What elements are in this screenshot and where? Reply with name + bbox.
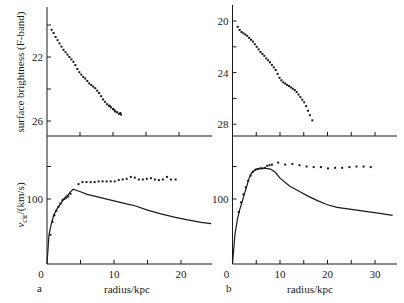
data-point (175, 179, 177, 181)
data-point (119, 112, 121, 114)
data-point (348, 166, 350, 168)
data-point (142, 179, 144, 181)
data-point (265, 57, 267, 59)
figure: 2226202428100010201000102030 surface bri… (0, 0, 404, 303)
data-point (82, 76, 84, 78)
data-point (146, 178, 148, 180)
data-point (68, 56, 70, 58)
data-point (100, 95, 102, 97)
y-tick-label: 100 (212, 193, 229, 205)
data-point (269, 164, 271, 166)
data-point (116, 111, 118, 113)
data-point (126, 178, 128, 180)
data-point (271, 64, 273, 66)
x-tick-label: 30 (370, 268, 382, 280)
data-point (104, 101, 106, 103)
data-point (290, 86, 292, 88)
data-point (57, 39, 59, 41)
data-point (96, 90, 98, 92)
data-point (158, 179, 160, 181)
y-axis-title-top: surface brightness (F-band) (14, 11, 27, 132)
data-point (320, 166, 322, 168)
tick-marks (47, 21, 375, 264)
data-point (102, 98, 104, 100)
data-point (306, 166, 308, 168)
data-point (130, 176, 132, 178)
data-point (53, 32, 55, 34)
data-point (86, 181, 88, 183)
data-point (363, 166, 365, 168)
data-point (277, 162, 279, 164)
data-point (78, 183, 80, 185)
data-point (88, 82, 90, 84)
data-point (51, 29, 53, 31)
data-point (118, 179, 120, 181)
y-tick-label: 100 (27, 193, 44, 205)
data-point (252, 41, 254, 43)
data-point (84, 78, 86, 80)
data-point (134, 177, 136, 179)
data-point (138, 179, 140, 181)
data-point (106, 103, 108, 105)
data-point (341, 167, 343, 169)
data-point (280, 79, 282, 81)
data-point (92, 86, 94, 88)
data-point (299, 96, 301, 98)
data-point (294, 89, 296, 91)
data-point (114, 180, 116, 182)
data-point (248, 37, 250, 39)
data-point (298, 94, 300, 96)
panel-b-label: b (226, 282, 232, 294)
plot-data (47, 26, 393, 264)
data-point (90, 84, 92, 86)
data-point (94, 181, 96, 183)
data-point (258, 48, 260, 50)
data-point (241, 31, 243, 33)
data-point (305, 105, 307, 107)
data-point (370, 166, 372, 168)
x-axis-title-a: radius/kpc (104, 283, 150, 295)
data-point (110, 180, 112, 182)
data-point (98, 180, 100, 182)
data-point (162, 179, 164, 181)
data-point (82, 181, 84, 183)
data-point (86, 80, 88, 82)
data-point (67, 54, 69, 56)
data-point (288, 85, 290, 87)
data-point (296, 91, 298, 93)
data-point (282, 81, 284, 83)
data-point (150, 177, 152, 179)
data-point (271, 164, 273, 166)
data-point (356, 166, 358, 168)
data-point (72, 61, 74, 63)
data-point (279, 77, 281, 79)
data-point (122, 179, 124, 181)
data-point (90, 181, 92, 183)
data-point (239, 29, 241, 31)
data-point (269, 61, 271, 63)
y-tick-label: 22 (32, 51, 43, 63)
model-curve (233, 168, 393, 264)
data-point (94, 87, 96, 89)
data-point (254, 43, 256, 45)
data-point (307, 110, 309, 112)
data-point (277, 73, 279, 75)
data-point (284, 164, 286, 166)
y-tick-label: 28 (218, 118, 230, 130)
data-point (301, 99, 303, 101)
data-point (70, 58, 72, 60)
data-point (261, 53, 263, 55)
data-point (309, 114, 311, 116)
data-point (74, 64, 76, 66)
data-point (303, 101, 305, 103)
data-point (311, 119, 313, 121)
data-point (166, 176, 168, 178)
data-point (260, 51, 262, 53)
x-axis-title-b: radius/kpc (287, 283, 333, 295)
data-point (154, 179, 156, 181)
data-point (266, 165, 268, 167)
data-point (246, 35, 248, 37)
data-point (263, 55, 265, 57)
data-point (59, 42, 61, 44)
panel-a-label: a (37, 282, 42, 294)
